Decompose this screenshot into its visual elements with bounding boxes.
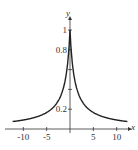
x-axis-label: x bbox=[130, 122, 135, 132]
x-tick-label: -10 bbox=[17, 132, 29, 142]
y-axis-label: y bbox=[65, 8, 70, 18]
y-tick-label: 0.8 bbox=[56, 45, 68, 55]
y-tick-label: 1 bbox=[63, 25, 68, 35]
y-tick-label: 0.2 bbox=[56, 104, 67, 114]
x-tick-label: 10 bbox=[112, 132, 122, 142]
chart: xy-10-55100.20.81 bbox=[0, 0, 138, 150]
x-tick-label: -5 bbox=[43, 132, 51, 142]
axes: xy-10-55100.20.81 bbox=[5, 8, 135, 142]
x-tick-label: 5 bbox=[91, 132, 96, 142]
